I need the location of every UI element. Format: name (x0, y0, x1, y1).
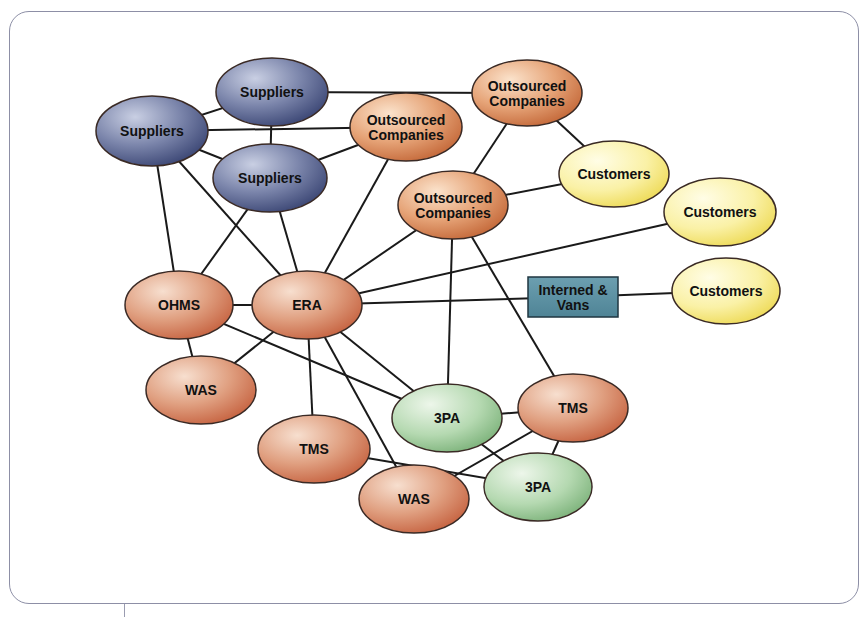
node-tms-left: TMS (258, 415, 370, 483)
node-was-left: WAS (146, 356, 256, 424)
node-label: WAS (185, 382, 217, 398)
node-label: TMS (558, 400, 588, 416)
node-out-low: OutsourcedCompanies (398, 171, 508, 239)
node-label: Suppliers (238, 170, 302, 186)
node-tpa-up: 3PA (392, 384, 502, 452)
node-label: Suppliers (240, 84, 304, 100)
node-era: ERA (252, 271, 362, 339)
edge-era-cust_2 (307, 212, 720, 305)
node-label: 3PA (525, 479, 551, 495)
node-cust-2: Customers (664, 178, 776, 246)
node-label: Companies (415, 205, 491, 221)
node-label: Customers (689, 283, 762, 299)
node-out-mid: OutsourcedCompanies (350, 93, 462, 161)
node-label: Vans (557, 297, 590, 313)
node-sup-left: Suppliers (96, 96, 208, 166)
node-sup-top: Suppliers (216, 58, 328, 126)
node-label: Outsourced (488, 78, 567, 94)
node-label: Customers (577, 166, 650, 182)
node-label: OHMS (158, 297, 200, 313)
network-diagram: SuppliersSuppliersSuppliersOutsourcedCom… (0, 0, 864, 617)
node-ohms: OHMS (125, 271, 233, 339)
node-label: Companies (368, 127, 444, 143)
node-sup-mid: Suppliers (213, 144, 327, 212)
node-tms-right: TMS (518, 374, 628, 442)
node-label: Customers (683, 204, 756, 220)
node-label: Companies (489, 93, 565, 109)
node-label: Interned & (538, 282, 607, 298)
node-label: Outsourced (367, 112, 446, 128)
node-label: 3PA (434, 410, 460, 426)
node-cust-3: Customers (672, 258, 780, 324)
node-interned: Interned &Vans (528, 277, 618, 317)
node-label: TMS (299, 441, 329, 457)
node-tpa-low: 3PA (484, 453, 592, 521)
node-label: Outsourced (414, 190, 493, 206)
node-label: Suppliers (120, 123, 184, 139)
nodes-layer: SuppliersSuppliersSuppliersOutsourcedCom… (96, 58, 780, 533)
node-out-top: OutsourcedCompanies (472, 60, 582, 126)
node-was-low: WAS (359, 465, 469, 533)
node-label: ERA (292, 297, 322, 313)
node-cust-1: Customers (559, 141, 669, 207)
node-label: WAS (398, 491, 430, 507)
